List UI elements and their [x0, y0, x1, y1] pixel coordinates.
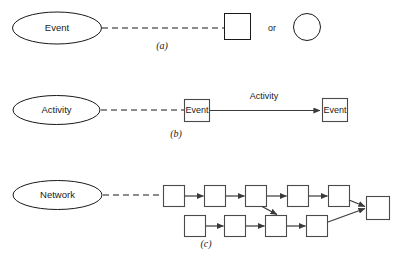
network-ellipse-c-label: Network	[40, 189, 75, 200]
network-node-top-4	[288, 186, 309, 207]
network-node-bottom-1	[185, 216, 206, 237]
network-node-top-5	[329, 186, 350, 207]
panel-a: Event or (a)	[13, 12, 321, 52]
network-node-top-2	[205, 186, 226, 207]
panel-b-caption: (b)	[170, 128, 182, 140]
event-square-node	[225, 14, 251, 40]
network-node-terminal	[367, 197, 390, 220]
activity-arrow-b-label: Activity	[250, 91, 279, 101]
network-node-bottom-4	[307, 216, 328, 237]
event-box-b-2-label: Event	[323, 105, 347, 115]
event-ellipse-a-label: Event	[45, 22, 70, 33]
panel-b: Activity Event Activity Event (b)	[13, 91, 348, 140]
event-box-b-1-label: Event	[185, 105, 209, 115]
panel-c: Network	[13, 181, 390, 251]
or-separator-label: or	[268, 23, 276, 33]
network-arrow-top3-to-bottom3	[262, 207, 277, 215]
activity-ellipse-b-label: Activity	[41, 104, 71, 115]
network-arrow-top5-to-terminal	[349, 200, 365, 207]
panel-a-caption: (a)	[156, 40, 168, 52]
network-node-top-1	[164, 186, 185, 207]
panel-c-caption: (c)	[200, 238, 212, 250]
network-node-top-3	[246, 186, 267, 207]
network-node-bottom-3	[266, 216, 287, 237]
network-arrow-bottom4-to-terminal	[328, 209, 365, 223]
event-circle-node	[294, 14, 321, 41]
notation-diagram: Event or (a) Activity Event Activity Eve…	[0, 0, 399, 256]
network-node-bottom-2	[225, 216, 246, 237]
